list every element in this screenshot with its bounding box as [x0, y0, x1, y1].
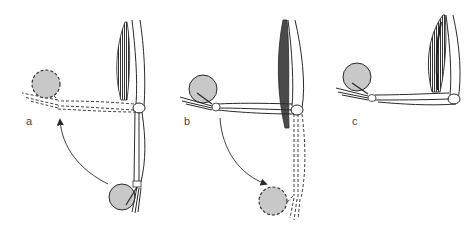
- elbow-joint: [133, 103, 145, 113]
- panel-b: [180, 20, 305, 220]
- upper-arm-bone: [132, 20, 145, 106]
- elbow-diagram: [0, 0, 471, 230]
- biceps-muscle: [117, 22, 130, 100]
- elbow-joint: [448, 94, 460, 104]
- panel-label-c: c: [352, 115, 358, 127]
- panel-c: [336, 15, 460, 105]
- motion-arrow-down: [220, 118, 266, 184]
- upper-arm-bone: [288, 20, 304, 108]
- panel-label-a: a: [26, 115, 32, 127]
- ball: [189, 75, 217, 103]
- upper-arm-bone: [446, 15, 460, 100]
- biceps-muscle: [278, 20, 289, 128]
- ball-ghost: [259, 187, 287, 215]
- motion-arrow-up: [60, 120, 108, 184]
- panel-label-b: b: [184, 115, 190, 127]
- forearm-flexed: [368, 93, 456, 105]
- forearm-extended: [133, 112, 145, 187]
- panel-a: [22, 20, 145, 213]
- ball-ghost: [32, 70, 60, 98]
